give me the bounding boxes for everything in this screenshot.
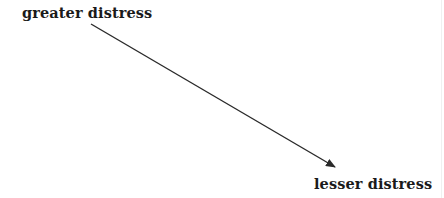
distress-gradient-diagram: greater distress lesser distress (0, 0, 444, 198)
right-edge-border (441, 0, 442, 198)
arrow-line (0, 0, 444, 198)
lesser-distress-label: lesser distress (314, 175, 432, 192)
